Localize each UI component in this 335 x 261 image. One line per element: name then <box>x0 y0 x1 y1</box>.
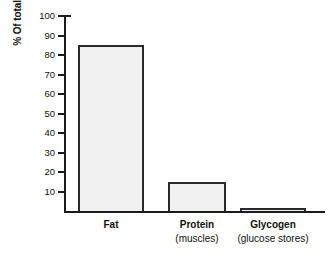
y-axis-tick-label: 90 <box>15 31 55 41</box>
y-axis-tick-label: 70 <box>15 70 55 80</box>
bar-fat <box>78 45 144 213</box>
y-axis-tick-label: 40 <box>15 128 55 138</box>
y-axis-tick-label: 100 <box>15 11 55 21</box>
y-axis-tick-label: 50 <box>15 109 55 119</box>
y-axis-tick-label: 80 <box>15 50 55 60</box>
y-axis-tick-label: 30 <box>15 148 55 158</box>
y-axis-top-cap <box>64 15 71 17</box>
x-axis-label-sub: (glucose stores) <box>213 233 333 245</box>
bar-chart: % Of total 100908070605040302010 FatProt… <box>0 0 335 261</box>
x-axis-label-glycogen: Glycogen(glucose stores) <box>213 219 333 245</box>
x-axis-label-main: Glycogen <box>213 219 333 231</box>
y-axis-tick-label: 20 <box>15 167 55 177</box>
y-axis-tick-label: 10 <box>15 187 55 197</box>
bar-protein <box>168 182 226 213</box>
y-axis-tick-label: 60 <box>15 89 55 99</box>
y-axis-line <box>64 15 66 213</box>
x-axis-line <box>64 211 325 213</box>
